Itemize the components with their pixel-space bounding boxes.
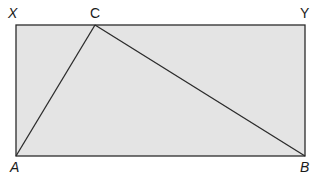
geometry-diagram: X C Y A B [0, 0, 322, 179]
label-x: X [7, 5, 18, 21]
label-y: Y [300, 5, 310, 21]
label-b: B [300, 159, 309, 175]
label-c: C [90, 5, 100, 21]
rectangle-xyba [16, 25, 305, 156]
label-a: A [9, 159, 19, 175]
